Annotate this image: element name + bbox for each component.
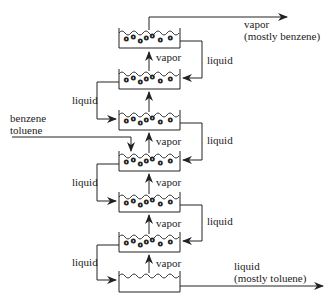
column-diagram: ooooooo	[0, 0, 336, 296]
vapor-label-1: vapor	[156, 51, 181, 63]
liquid-label-r3: liquid	[207, 215, 233, 227]
liquid-label-r2: liquid	[207, 134, 233, 146]
liquid-label-l3: liquid	[72, 256, 98, 268]
vapor-label-4: vapor	[156, 176, 181, 188]
vapor-label-6: vapor	[156, 257, 181, 269]
top-vapor-label: vapor	[244, 18, 269, 30]
feed-label-benzene: benzene	[10, 112, 46, 124]
tray-7	[119, 271, 180, 292]
liquid-label-l2: liquid	[72, 176, 98, 188]
liquid-label-l1: liquid	[72, 94, 98, 106]
vapor-label-5: vapor	[156, 217, 181, 229]
tray-6	[119, 232, 180, 252]
liquid-label-r1: liquid	[207, 54, 233, 66]
top-vapor-note: (mostly benzene)	[244, 30, 320, 42]
tray-1	[119, 28, 180, 48]
tray-3	[119, 110, 180, 130]
vapor-label-3: vapor	[156, 135, 181, 147]
feed-label-toluene: toluene	[10, 124, 42, 136]
tray-5	[119, 192, 180, 212]
tray-4	[119, 151, 180, 171]
bottom-liquid-label: liquid	[234, 260, 260, 272]
tray-2	[119, 69, 180, 89]
bottom-liquid-note: (mostly toluene)	[234, 272, 306, 284]
